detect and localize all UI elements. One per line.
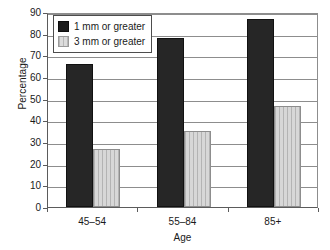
- legend-swatch-1mm: [58, 21, 69, 32]
- y-axis-tick-label: 10: [7, 181, 41, 191]
- bar-3mm-3: [274, 106, 301, 207]
- legend-item-3mm: 3 mm or greater: [58, 34, 145, 49]
- bar-3mm-1: [93, 149, 120, 208]
- legend-item-1mm: 1 mm or greater: [58, 19, 145, 34]
- y-axis-tick-label: 80: [7, 30, 41, 40]
- bar-1mm-3: [247, 19, 274, 208]
- x-axis-tick-mark: [318, 208, 319, 212]
- y-axis-tick-label: 0: [7, 203, 41, 213]
- x-axis-category-label: 85+: [228, 216, 318, 228]
- x-axis-category-label: 45–54: [47, 216, 137, 228]
- legend-swatch-3mm: [58, 36, 69, 47]
- x-axis-title: Age: [47, 232, 318, 243]
- bar-1mm-2: [157, 38, 184, 207]
- x-axis-tick-mark: [47, 208, 48, 212]
- y-axis-tick-label: 90: [7, 8, 41, 18]
- y-axis-tick-label: 70: [7, 51, 41, 61]
- legend-label-1mm: 1 mm or greater: [74, 21, 145, 32]
- x-axis-tick-mark: [228, 208, 229, 212]
- y-axis-tick-label: 20: [7, 160, 41, 170]
- chart-legend: 1 mm or greater 3 mm or greater: [53, 15, 152, 53]
- y-axis-tick-label: 60: [7, 73, 41, 83]
- legend-label-3mm: 3 mm or greater: [74, 36, 145, 47]
- bar-3mm-2: [184, 131, 211, 207]
- y-axis-tick-label: 30: [7, 138, 41, 148]
- y-axis-tick-label: 40: [7, 116, 41, 126]
- bar-1mm-1: [66, 64, 93, 207]
- y-axis-tick-label: 50: [7, 95, 41, 105]
- bar-chart-figure: Percentage 0102030405060708090 45–5455–8…: [0, 0, 330, 250]
- x-axis-category-label: 55–84: [138, 216, 228, 228]
- x-axis-tick-mark: [137, 208, 138, 212]
